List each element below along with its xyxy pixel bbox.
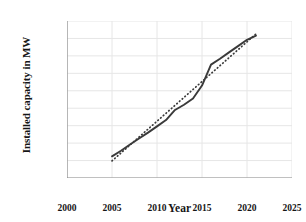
trendline-series	[112, 34, 256, 161]
chart-title	[0, 0, 306, 2]
chart-figure: Installed capacity in MW 05,00010,00015,…	[0, 0, 306, 222]
x-axis-title: Year	[67, 202, 292, 214]
plot-area: 05,00010,00015,00020,00025,00030,00035,0…	[67, 21, 292, 178]
chart-canvas	[67, 21, 292, 178]
y-axis-title: Installed capacity in MW	[20, 15, 34, 175]
